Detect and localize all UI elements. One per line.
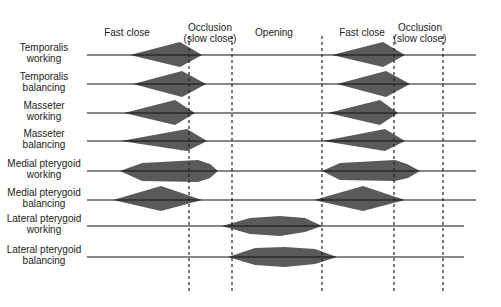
row-label-muscle: Medial pterygoid <box>1 187 87 198</box>
row-label-muscle: Temporalis <box>1 42 87 53</box>
emg-burst-shape <box>314 186 405 211</box>
row-label-side: balancing <box>1 82 87 93</box>
row-label-medial-pterygoid-balancing: Medial pterygoid balancing <box>1 187 87 209</box>
row-label-lateral-pterygoid-working: Lateral pterygoid working <box>1 213 87 235</box>
phase-label-text: Opening <box>244 27 304 38</box>
row-label-side: balancing <box>1 255 87 266</box>
phase-label-fast-close-1: Fast close <box>97 27 157 38</box>
row-label-muscle: Lateral pterygoid <box>1 244 87 255</box>
row-label-side: working <box>1 169 87 180</box>
row-label-lateral-pterygoid-balancing: Lateral pterygoid balancing <box>1 244 87 266</box>
row-label-muscle: Lateral pterygoid <box>1 213 87 224</box>
phase-label-text: Fast close <box>97 27 157 38</box>
phase-label-opening: Opening <box>244 27 304 38</box>
row-label-side: working <box>1 53 87 64</box>
phase-label-text: Occlusion <box>175 22 245 33</box>
row-label-masseter-working: Masseter working <box>1 100 87 122</box>
row-label-temporalis-working: Temporalis working <box>1 42 87 64</box>
row-label-masseter-balancing: Masseter balancing <box>1 128 87 150</box>
row-label-side: working <box>1 111 87 122</box>
phase-label-text: Occlusion <box>385 22 455 33</box>
row-label-side: balancing <box>1 139 87 150</box>
phase-label-subtext: (slow close) <box>175 33 245 44</box>
emg-burst-shape <box>323 129 405 151</box>
row-label-muscle: Masseter <box>1 128 87 139</box>
row-label-muscle: Temporalis <box>1 71 87 82</box>
row-label-side: balancing <box>1 198 87 209</box>
row-label-muscle: Medial pterygoid <box>1 158 87 169</box>
row-label-side: working <box>1 224 87 235</box>
phase-label-fast-close-2: Fast close <box>332 27 392 38</box>
row-label-medial-pterygoid-working: Medial pterygoid working <box>1 158 87 180</box>
muscle-activity-diagram: Fast close Occlusion (slow close) Openin… <box>0 0 501 307</box>
emg-burst-shape <box>121 129 207 151</box>
phase-label-occlusion-2: Occlusion (slow close) <box>385 22 455 44</box>
row-label-temporalis-balancing: Temporalis balancing <box>1 71 87 93</box>
phase-label-text: Fast close <box>332 27 392 38</box>
row-label-muscle: Masseter <box>1 100 87 111</box>
phase-label-occlusion-1: Occlusion (slow close) <box>175 22 245 44</box>
phase-label-subtext: (slow close) <box>385 33 455 44</box>
